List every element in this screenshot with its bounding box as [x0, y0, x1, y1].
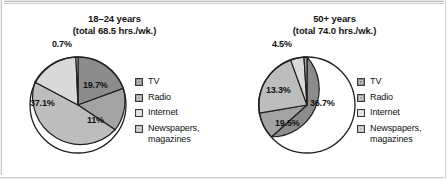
legend-swatch-internet-icon [357, 109, 365, 117]
legend-swatch-radio-icon [135, 94, 143, 102]
chart-title-line1: 18–24 years [88, 13, 141, 24]
legend-label-newspapers: Newspapers, [370, 123, 421, 133]
legend-label-internet: Internet [370, 107, 400, 118]
legend-swatch-newspapers-icon [135, 125, 143, 133]
legend-label-newspapers-line2: magazines [370, 134, 421, 145]
legend-item-radio: Radio [357, 92, 421, 104]
legend-swatch-internet-icon [135, 109, 143, 117]
chart-title-18-24: 18–24 years (total 68.5 hrs./wk.) [4, 13, 225, 36]
legend-swatch-tv-icon [357, 78, 365, 86]
legend-label-internet: Internet [148, 107, 178, 118]
pie-label-radio-50-plus: 19.5% [275, 118, 300, 128]
legend-label-radio: Radio [148, 92, 171, 103]
pie-label-tv-50-plus: 36.7% [310, 98, 335, 108]
chart-title-line1: 50+ years [313, 13, 356, 24]
legend-18-24: TV Radio Internet Newspapers, magazines [135, 76, 199, 149]
legend-label-tv: TV [148, 76, 159, 87]
legend-item-tv: TV [135, 76, 199, 88]
legend-swatch-radio-icon [357, 94, 365, 102]
legend-swatch-newspapers-icon [357, 125, 365, 133]
chart-title-line2: (total 68.5 hrs./wk.) [4, 25, 225, 37]
pie-label-newspapers-50-plus: 13.3% [266, 85, 291, 95]
pie-chart-50-plus [257, 55, 357, 155]
legend-item-newspapers: Newspapers, magazines [135, 123, 199, 146]
legend-label-newspapers-line2: magazines [148, 134, 199, 145]
legend-item-newspapers: Newspapers, magazines [357, 123, 421, 146]
legend-item-radio: Radio [135, 92, 199, 104]
figure-canvas: 18–24 years (total 68.5 hrs./wk.) [0, 0, 447, 179]
pie-label-internet-50-plus: 4.5% [272, 39, 292, 49]
legend-label-radio: Radio [370, 92, 393, 103]
pie-label-radio-18-24: 11% [87, 115, 104, 125]
chart-panel-18-24: 18–24 years (total 68.5 hrs./wk.) [4, 0, 225, 179]
legend-item-tv: TV [357, 76, 421, 88]
chart-title-50-plus: 50+ years (total 74.0 hrs./wk.) [225, 13, 444, 36]
pie-svg-50-plus [257, 55, 357, 155]
legend-label-tv: TV [370, 76, 381, 87]
legend-item-internet: Internet [135, 107, 199, 119]
legend-label-newspapers-wrap: Newspapers, magazines [370, 123, 421, 145]
chart-title-line2: (total 74.0 hrs./wk.) [225, 25, 444, 37]
pie-label-internet-18-24: 0.7% [52, 39, 72, 49]
legend-50-plus: TV Radio Internet Newspapers, magazines [357, 76, 421, 149]
pie-label-newspapers-18-24: 37.1% [30, 98, 55, 108]
legend-label-newspapers-wrap: Newspapers, magazines [148, 123, 199, 145]
legend-swatch-tv-icon [135, 78, 143, 86]
legend-label-newspapers: Newspapers, [148, 123, 199, 133]
pie-label-tv-18-24: 19.7% [83, 80, 108, 90]
chart-panel-50-plus: 50+ years (total 74.0 hrs./wk.) [225, 0, 444, 179]
legend-item-internet: Internet [357, 107, 421, 119]
